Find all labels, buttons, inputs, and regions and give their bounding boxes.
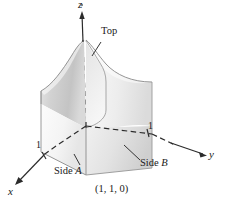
- point-coordinate-label: (1, 1, 0): [95, 184, 128, 195]
- side-a-word: Side: [54, 165, 73, 176]
- y-axis-arrowhead: [199, 152, 207, 157]
- solid-body: [41, 40, 152, 175]
- z-axis-label: z: [78, 0, 82, 10]
- y-axis-label: y: [209, 149, 214, 160]
- y-axis-tick-label-1: 1: [148, 121, 153, 131]
- x-axis-label: x: [8, 186, 13, 197]
- z-axis-arrowhead: [79, 11, 84, 19]
- side-b-label: Side B: [140, 158, 168, 169]
- top-surface-label: Top: [101, 26, 117, 37]
- side-b-word: Side: [140, 157, 159, 168]
- x-axis-tick-label-1: 1: [36, 140, 41, 150]
- side-a-label: Side A: [54, 166, 82, 177]
- side-a-letter: A: [75, 165, 81, 176]
- figure-3d-solid: z y x 1 1 Top Side A Side B (1, 1, 0): [0, 0, 225, 209]
- side-b-letter: B: [161, 157, 167, 168]
